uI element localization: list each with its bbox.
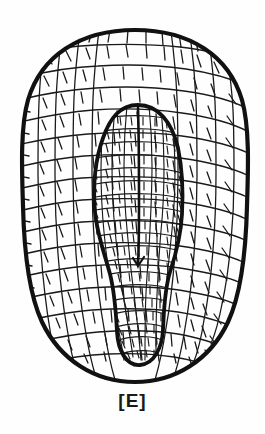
raphe-midline [138, 108, 139, 264]
figure-panel: [E] [0, 0, 265, 434]
seed-illustration [0, 0, 265, 434]
figure-caption-label: [E] [0, 390, 265, 412]
